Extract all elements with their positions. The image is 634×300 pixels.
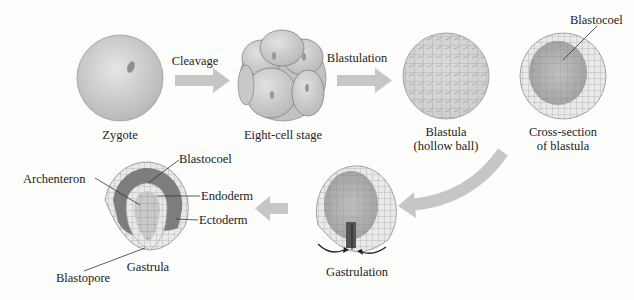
blastulation-arrow-icon [337,68,392,93]
blastula-label: Blastula [426,125,467,139]
gastrulation-label: Gastrulation [326,265,388,279]
left-arrow-icon [255,196,288,221]
eight-cell-illustration [238,30,326,121]
blastula-illustration [403,33,489,119]
blastocoel-callout-top: Blastocoel [570,13,623,27]
blastulation-label: Blastulation [327,51,387,65]
gastrulation-illustration [316,166,396,255]
blastula-sublabel: (hollow ball) [414,139,479,153]
archenteron-callout: Archenteron [23,172,85,186]
embryo-development-diagram: Zygote Cleavage Eight-cell stage Blastul… [0,0,634,300]
blastula-cross-section-illustration [520,26,606,119]
eight-cell-label: Eight-cell stage [244,128,322,142]
curved-arrow-icon [398,152,503,218]
blastocoel-callout-gastrula: Blastocoel [179,152,232,166]
gastrula-illustration [84,160,200,271]
endoderm-callout: Endoderm [201,189,253,203]
cross-section-sublabel: of blastula [537,139,589,153]
gastrula-label: Gastrula [127,260,169,274]
cleavage-arrow-icon [175,68,230,93]
zygote-label: Zygote [102,128,137,142]
cleavage-label: Cleavage [172,54,219,68]
cross-section-label: Cross-section [529,125,597,139]
blastopore-callout: Blastopore [56,271,110,285]
zygote-illustration [77,35,163,121]
ectoderm-callout: Ectoderm [199,213,248,227]
